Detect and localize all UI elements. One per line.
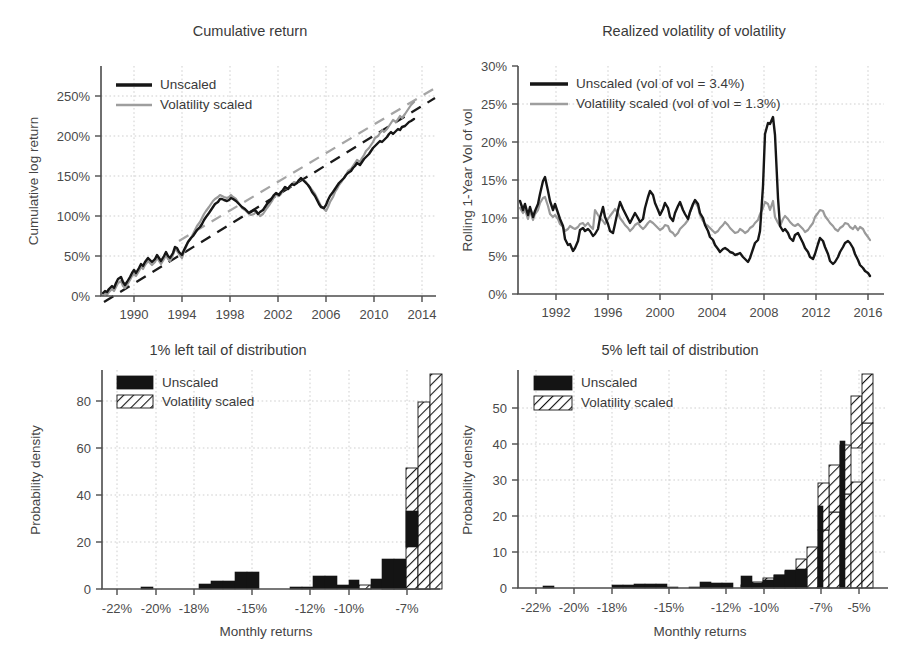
svg-text:60: 60 xyxy=(77,441,91,456)
svg-text:-18%: -18% xyxy=(179,601,210,616)
axes xyxy=(95,66,436,302)
legend-label-unscaled: Unscaled xyxy=(581,375,637,390)
svg-text:20: 20 xyxy=(77,535,91,550)
svg-text:40: 40 xyxy=(493,437,507,452)
legend-label-unscaled: Unscaled xyxy=(162,375,218,390)
y-axis-title: Probability density xyxy=(28,425,43,535)
svg-text:2014: 2014 xyxy=(408,307,437,322)
svg-text:200%: 200% xyxy=(57,129,91,144)
y-axis-title: Probability density xyxy=(460,425,475,535)
svg-text:1996: 1996 xyxy=(594,305,623,320)
y-tick-labels: 80 60 40 20 0 xyxy=(77,394,91,597)
y-tick-labels: 30% 25% 20% 15% 10% 5% 0% xyxy=(481,59,507,302)
x-tick-labels: -22% -20% -18% -15% -12% -10% -7% -5% xyxy=(521,600,871,615)
panel-tail-1pct: 1% left tail of distribution xyxy=(0,330,450,660)
svg-text:1994: 1994 xyxy=(168,307,197,322)
legend-swatch-volatility-scaled xyxy=(117,395,153,408)
svg-text:-7%: -7% xyxy=(809,600,833,615)
legend-swatch-unscaled xyxy=(534,376,572,390)
svg-text:1998: 1998 xyxy=(216,307,245,322)
svg-text:-5%: -5% xyxy=(847,600,871,615)
svg-text:20%: 20% xyxy=(481,135,507,150)
svg-text:10: 10 xyxy=(493,545,507,560)
svg-text:-22%: -22% xyxy=(102,601,133,616)
chart-title: 1% left tail of distribution xyxy=(149,342,306,358)
svg-text:-10%: -10% xyxy=(334,601,365,616)
svg-text:40: 40 xyxy=(77,488,91,503)
series-volatility-scaled xyxy=(103,102,414,295)
svg-text:-22%: -22% xyxy=(521,600,552,615)
bars-volatility-scaled xyxy=(359,374,442,589)
svg-text:-18%: -18% xyxy=(597,600,628,615)
svg-text:-12%: -12% xyxy=(711,600,742,615)
chart-realized-vol-of-vol: Realized volatility of volatility xyxy=(450,14,898,334)
svg-text:1990: 1990 xyxy=(120,307,149,322)
svg-text:1992: 1992 xyxy=(542,305,571,320)
svg-text:-7%: -7% xyxy=(395,601,419,616)
svg-text:-12%: -12% xyxy=(295,601,326,616)
legend-label-volatility-scaled: Volatility scaled (vol of vol = 1.3%) xyxy=(576,96,780,111)
svg-text:2016: 2016 xyxy=(854,305,883,320)
svg-text:50: 50 xyxy=(493,401,507,416)
svg-text:0: 0 xyxy=(84,582,91,597)
svg-text:20: 20 xyxy=(493,509,507,524)
svg-text:0%: 0% xyxy=(71,289,90,304)
svg-text:30%: 30% xyxy=(481,59,507,74)
svg-text:5%: 5% xyxy=(488,249,507,264)
x-tick-labels: 1992 1996 2000 2004 2008 2012 2016 xyxy=(542,305,883,320)
x-tick-labels: -22% -20% -18% -15% -12% -10% -7% xyxy=(102,601,419,616)
svg-text:-15%: -15% xyxy=(237,601,268,616)
svg-text:80: 80 xyxy=(77,394,91,409)
y-tick-labels: 250% 200% 150% 100% 50% 0% xyxy=(57,89,91,304)
legend: Unscaled Volatility scaled xyxy=(534,375,673,410)
svg-text:0: 0 xyxy=(500,581,507,596)
svg-text:100%: 100% xyxy=(57,209,91,224)
bars-volatility-scaled xyxy=(741,374,873,588)
chart-title: 5% left tail of distribution xyxy=(601,342,758,358)
chart-tail-1pct: 1% left tail of distribution xyxy=(0,330,450,660)
bars-unscaled xyxy=(141,511,418,589)
svg-text:30: 30 xyxy=(493,473,507,488)
legend-label-volatility-scaled: Volatility scaled xyxy=(162,394,254,409)
legend-label-unscaled: Unscaled xyxy=(160,77,216,92)
svg-text:250%: 250% xyxy=(57,89,91,104)
svg-text:2010: 2010 xyxy=(360,307,389,322)
legend-swatch-unscaled xyxy=(117,376,153,389)
svg-text:2012: 2012 xyxy=(802,305,831,320)
x-axis-title: Monthly returns xyxy=(219,624,312,639)
legend: Unscaled Volatility scaled xyxy=(116,77,252,112)
legend-label-volatility-scaled: Volatility scaled xyxy=(160,97,252,112)
series-unscaled xyxy=(520,117,870,276)
svg-text:50%: 50% xyxy=(64,249,90,264)
svg-text:-20%: -20% xyxy=(559,600,590,615)
svg-text:2006: 2006 xyxy=(312,307,341,322)
legend-label-unscaled: Unscaled (vol of vol = 3.4%) xyxy=(576,76,744,91)
y-axis-title: Cumulative log return xyxy=(26,117,41,245)
svg-text:25%: 25% xyxy=(481,97,507,112)
legend-label-volatility-scaled: Volatility scaled xyxy=(581,395,673,410)
svg-text:2000: 2000 xyxy=(646,305,675,320)
y-axis-title: Rolling 1-Year Vol of vol xyxy=(460,109,475,252)
svg-text:10%: 10% xyxy=(481,211,507,226)
svg-text:2004: 2004 xyxy=(698,305,727,320)
x-tick-labels: 1990 1994 1998 2002 2006 2010 2014 xyxy=(120,307,437,322)
panel-realized-vol-of-vol: Realized volatility of volatility xyxy=(450,14,898,334)
legend: Unscaled (vol of vol = 3.4%) Volatility … xyxy=(530,76,780,111)
x-axis-title: Monthly returns xyxy=(653,624,746,639)
panel-cumulative-return: Cumulative return xyxy=(0,14,450,334)
panel-tail-5pct: 5% left tail of distribution xyxy=(450,330,898,660)
svg-text:15%: 15% xyxy=(481,173,507,188)
chart-title: Realized volatility of volatility xyxy=(602,23,786,39)
chart-tail-5pct: 5% left tail of distribution xyxy=(450,330,898,660)
legend-swatch-volatility-scaled xyxy=(534,396,572,410)
svg-text:2002: 2002 xyxy=(264,307,293,322)
series-volatility-scaled xyxy=(520,197,870,240)
svg-text:150%: 150% xyxy=(57,169,91,184)
figure-root: Cumulative return xyxy=(0,0,898,666)
svg-text:-15%: -15% xyxy=(654,600,685,615)
svg-text:0%: 0% xyxy=(488,287,507,302)
svg-text:-10%: -10% xyxy=(749,600,780,615)
legend: Unscaled Volatility scaled xyxy=(117,375,254,409)
svg-text:-20%: -20% xyxy=(141,601,172,616)
chart-title: Cumulative return xyxy=(193,23,307,39)
